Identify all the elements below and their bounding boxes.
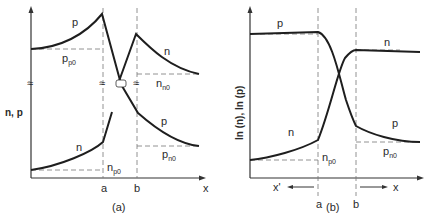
panel-a-n-upper-label: n [164, 45, 170, 57]
panel-b-x-prime-label: x' [273, 181, 281, 193]
panel-b-np0-label: np0 [322, 151, 336, 166]
panel-b-n-curve [250, 50, 420, 160]
panel-a-y-axis-arrow-icon [29, 6, 34, 13]
panel-a-nn0-label: nn0 [156, 77, 170, 91]
panel-b-x-prime-arrow-icon [287, 185, 293, 189]
panel-a-tick-b: b [134, 182, 140, 194]
panel-a-tick-a: a [101, 182, 108, 194]
panel-b-x-arrow-icon [382, 185, 388, 189]
panel-a-p-lower-label: p [161, 115, 167, 127]
panel-b-y-axis-label: ln (n), ln (p) [234, 86, 245, 140]
panel-b: p n n p np0 pn0 x' x ln (n), ln (p) a b … [234, 6, 424, 213]
panel-b-x-axis-arrow-icon [417, 176, 424, 181]
panel-b-y-axis-arrow-icon [248, 6, 253, 13]
panel-a-n-lower-curve [31, 112, 112, 170]
panel-a-x-axis-label: x [203, 182, 209, 194]
panel-a-p-upper-label: p [72, 16, 78, 28]
panel-a-pn0-label: pn0 [162, 148, 176, 162]
panel-a-caption: (a) [112, 201, 125, 213]
panel-b-p-lower-label: p [392, 117, 398, 129]
panel-a-break-icon: ≈ [99, 77, 105, 89]
panel-a: ≈ ≈ ≈ p n n p pp0 nn0 np0 pn0 n, p a b x… [5, 6, 209, 213]
panel-b-n-lower-label: n [288, 126, 294, 138]
panel-b-n-upper-label: n [384, 36, 390, 48]
panel-b-p-upper-label: p [277, 17, 283, 29]
panel-a-curve-break-icon [116, 80, 126, 87]
panel-a-y-axis-label: n, p [5, 107, 23, 118]
panel-b-caption: (b) [326, 201, 339, 213]
panel-a-n-lower-label: n [76, 141, 82, 153]
panel-b-tick-b: b [353, 198, 359, 210]
panel-a-break-icon: ≈ [27, 77, 33, 89]
panel-a-x-axis-arrow-icon [199, 176, 206, 181]
pn-junction-diagram: ≈ ≈ ≈ p n n p pp0 nn0 np0 pn0 n, p a b x… [0, 0, 432, 220]
panel-b-tick-a: a [316, 198, 323, 210]
panel-a-pp0-label: pp0 [62, 52, 76, 67]
panel-b-pn0-label: pn0 [383, 145, 397, 159]
panel-b-x-axis-label: x [393, 181, 399, 193]
panel-a-break-icon: ≈ [133, 77, 139, 89]
panel-a-np0-label: np0 [107, 161, 121, 176]
